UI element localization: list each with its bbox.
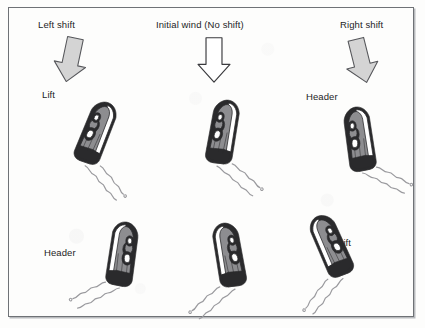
boat-top-center: [175, 88, 265, 198]
boat-top-right: [310, 96, 405, 201]
wind-label-right-shift: Right shift: [340, 20, 383, 30]
wind-arrow-left-shift: [43, 32, 99, 86]
boat-bottom-left: [78, 214, 173, 314]
wind-arrow-initial-wind: [186, 32, 242, 86]
wind-label-initial-wind: Initial wind (No shift): [156, 20, 244, 30]
boat-top-left: [48, 88, 138, 198]
figure-page: .b-dark { fill: #2a2a2c; stroke: #2a2a2c…: [0, 0, 425, 328]
wind-label-left-shift: Left shift: [38, 20, 75, 30]
boat-label-bottom-left: Header: [44, 248, 76, 258]
boat-bottom-center: [185, 212, 280, 317]
boat-bottom-right: [288, 200, 380, 315]
wind-arrow-right-shift: [333, 33, 389, 87]
